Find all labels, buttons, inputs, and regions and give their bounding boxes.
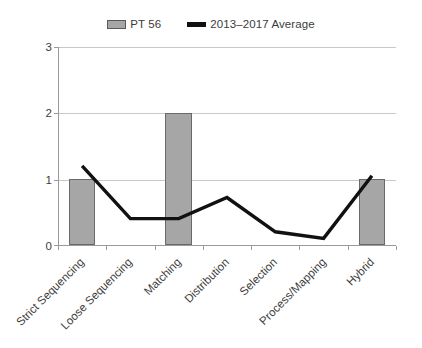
line-series-average bbox=[58, 47, 396, 246]
legend-item-average[interactable]: 2013–2017 Average bbox=[187, 18, 314, 30]
legend-item-pt-56[interactable]: PT 56 bbox=[107, 18, 161, 30]
y-tick-label-3: 3 bbox=[30, 41, 52, 53]
y-tick-label-2: 2 bbox=[30, 107, 52, 119]
line-swatch-icon bbox=[187, 22, 206, 27]
y-tick-label-1: 1 bbox=[30, 174, 52, 186]
x-label-strict-sequencing: Strict Sequencing bbox=[0, 256, 86, 348]
legend-label-average: 2013–2017 Average bbox=[210, 18, 314, 30]
legend-label-pt-56: PT 56 bbox=[130, 18, 161, 30]
chart-legend: PT 56 2013–2017 Average bbox=[0, 18, 422, 30]
plot-area bbox=[58, 47, 396, 246]
chart-container: PT 56 2013–2017 Average 3 2 1 0 bbox=[0, 0, 422, 348]
bar-swatch-icon bbox=[107, 20, 126, 29]
average-line-path bbox=[82, 166, 372, 239]
x-axis-category-labels: Strict SequencingLoose SequencingMatchin… bbox=[0, 250, 422, 348]
